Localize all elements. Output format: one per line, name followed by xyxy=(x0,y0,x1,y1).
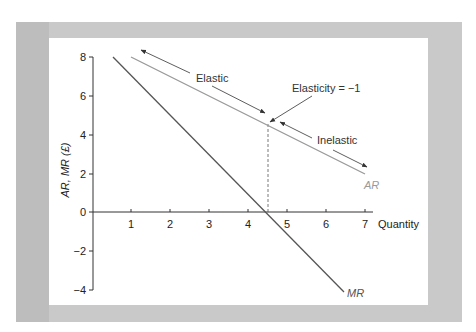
x-tick-labels: 1 2 3 4 5 6 7 xyxy=(128,218,368,230)
svg-text:7: 7 xyxy=(362,218,368,230)
elastic-label: Elastic xyxy=(196,72,229,84)
mr-label: MR xyxy=(347,287,364,299)
svg-text:6: 6 xyxy=(80,90,86,102)
svg-text:−2: −2 xyxy=(73,245,86,257)
elasticity-label: Elasticity = −1 xyxy=(292,82,360,94)
svg-text:5: 5 xyxy=(284,218,290,230)
inelastic-label: Inelastic xyxy=(317,134,358,146)
chart: 8 6 4 2 0 −2 −4 1 2 3 4 5 6 7 Quantity A… xyxy=(0,0,476,332)
svg-text:8: 8 xyxy=(80,51,86,63)
svg-text:3: 3 xyxy=(206,218,212,230)
svg-text:−4: −4 xyxy=(73,284,86,296)
ar-line xyxy=(131,57,365,174)
elastic-arrow-up xyxy=(141,50,190,73)
inelastic-arrow-down xyxy=(333,150,367,167)
elasticity-pointer-arrow xyxy=(270,96,312,122)
svg-text:0: 0 xyxy=(80,206,86,218)
elastic-arrow-down xyxy=(212,86,265,113)
svg-text:4: 4 xyxy=(80,129,86,141)
svg-text:2: 2 xyxy=(80,168,86,180)
ar-label: AR xyxy=(363,179,379,191)
y-ticks xyxy=(89,57,93,290)
x-axis-label: Quantity xyxy=(378,218,419,230)
inelastic-arrow-up xyxy=(280,122,312,138)
y-axis-label: AR, MR (£) xyxy=(59,142,71,198)
svg-text:1: 1 xyxy=(128,218,134,230)
y-tick-labels: 8 6 4 2 0 −2 −4 xyxy=(73,51,86,296)
svg-text:6: 6 xyxy=(323,218,329,230)
svg-text:2: 2 xyxy=(167,218,173,230)
svg-text:4: 4 xyxy=(245,218,251,230)
